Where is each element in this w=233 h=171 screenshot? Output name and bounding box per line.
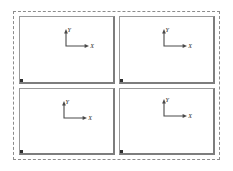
- axis-label-x: X: [89, 43, 94, 49]
- panel-resize-handle[interactable]: [120, 79, 123, 82]
- axis-label-y: Y: [68, 27, 72, 33]
- coordinate-axis-icon: Y X: [158, 97, 194, 123]
- panel-bottom-left[interactable]: Y X: [19, 88, 115, 156]
- axis-label-y: Y: [166, 96, 170, 102]
- coordinate-axis-icon: Y X: [158, 27, 194, 53]
- panel-resize-handle[interactable]: [120, 150, 123, 153]
- panel-grid: Y X Y X: [19, 16, 215, 155]
- coordinate-axis-icon: Y X: [60, 27, 96, 53]
- panel-resize-handle[interactable]: [20, 150, 23, 153]
- panel-top-right[interactable]: Y X: [119, 16, 215, 84]
- panel-bottom-right[interactable]: Y X: [119, 88, 215, 156]
- canvas: Y X Y X: [0, 0, 233, 171]
- axis-label-x: X: [187, 113, 192, 119]
- axis-label-y: Y: [66, 98, 70, 104]
- axis-label-x: X: [187, 43, 192, 49]
- panel-resize-handle[interactable]: [20, 79, 23, 82]
- panel-top-left[interactable]: Y X: [19, 16, 115, 84]
- axis-label-y: Y: [166, 27, 170, 33]
- axis-label-x: X: [87, 115, 92, 121]
- coordinate-axis-icon: Y X: [58, 99, 94, 125]
